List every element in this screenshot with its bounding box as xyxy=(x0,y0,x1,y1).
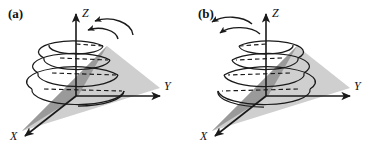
panel-a: (a) Z Y xyxy=(0,0,190,153)
figure-root: (a) Z Y xyxy=(0,0,380,153)
inner-rotation-arrow xyxy=(220,28,260,34)
panel-a-diagram: Z Y X xyxy=(0,0,190,153)
panel-b-diagram: Z Y X xyxy=(190,0,380,153)
x-axis-label: X xyxy=(9,129,18,143)
rotation-arrows xyxy=(88,19,133,39)
inner-rotation-arrow xyxy=(88,28,118,39)
z-axis-label: Z xyxy=(272,6,279,20)
z-axis-label: Z xyxy=(82,6,89,20)
panel-b: (b) Z Y X xyxy=(190,0,380,153)
y-axis-label: Y xyxy=(164,79,172,93)
cone-light-lobe xyxy=(212,46,350,131)
x-axis-label: X xyxy=(199,129,208,143)
rotation-arrows xyxy=(212,17,260,34)
y-axis-label: Y xyxy=(354,79,362,93)
outer-rotation-arrow xyxy=(212,17,252,24)
